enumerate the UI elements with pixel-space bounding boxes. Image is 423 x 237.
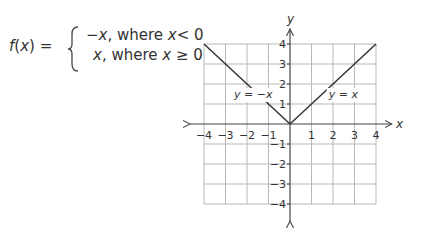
x-tick-label: −2 [239, 129, 255, 142]
x-tick-label: 3 [351, 129, 358, 142]
y-tick-label: −4 [270, 198, 286, 211]
x-tick-label: 4 [373, 129, 380, 142]
y-axis-label: y [286, 12, 295, 26]
y-tick-label: 1 [279, 98, 286, 111]
y-tick-label: 3 [279, 58, 286, 71]
y-tick-label: 2 [279, 78, 286, 91]
x-tick-label: 2 [330, 129, 337, 142]
y-tick-label: 4 [279, 38, 286, 51]
x-tick-label: −3 [217, 129, 233, 142]
x-tick-label: 1 [308, 129, 315, 142]
annotation-label: y = x [328, 88, 359, 101]
x-axis-label: x [395, 117, 404, 131]
x-tick-label: −4 [196, 129, 212, 142]
absolute-value-graph: xy −4−3−2−112344321−1−2−3−4 y = −xy = x [0, 0, 423, 237]
y-tick-label: −2 [270, 158, 286, 171]
annotations: y = −xy = x [232, 88, 359, 102]
y-tick-label: −3 [270, 178, 286, 191]
annotation-label: y = −x [233, 88, 273, 101]
y-tick-label: −1 [270, 138, 286, 151]
